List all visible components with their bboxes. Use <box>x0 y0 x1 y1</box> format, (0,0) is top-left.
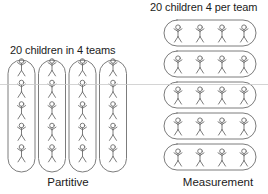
stick-figure-icon <box>109 102 117 119</box>
stick-figure-icon <box>218 87 226 104</box>
stick-figure-icon <box>174 149 182 166</box>
stick-figure-icon <box>18 59 26 76</box>
stick-figure-icon <box>48 59 56 76</box>
stick-figure-icon <box>196 56 204 73</box>
stick-figure-icon <box>196 149 204 166</box>
stick-figure-icon <box>240 87 248 104</box>
diagram-canvas: 20 children in 4 teams 20 children 4 per… <box>0 0 268 194</box>
stick-figure-icon <box>79 123 87 140</box>
stick-figure-icon <box>240 149 248 166</box>
stick-figure-icon <box>174 87 182 104</box>
stick-figure-icon <box>79 80 87 97</box>
stick-figure-icon <box>196 25 204 42</box>
stick-figure-icon <box>174 25 182 42</box>
measurement-group-layer <box>164 20 256 170</box>
stick-figure-icon <box>240 56 248 73</box>
partitive-group-layer <box>8 59 127 172</box>
partitive-label: Partitive <box>18 176 118 189</box>
stick-figure-icon <box>109 123 117 140</box>
stick-figure-icon <box>18 102 26 119</box>
stick-figure-icon <box>48 145 56 162</box>
stick-figure-icon <box>174 56 182 73</box>
stick-figure-icon <box>174 118 182 135</box>
stick-figure-icon <box>18 145 26 162</box>
stick-figure-icon <box>196 118 204 135</box>
stick-figure-icon <box>218 25 226 42</box>
stick-figure-icon <box>18 80 26 97</box>
stick-figure-icon <box>240 118 248 135</box>
partitive-measurement-diagram <box>0 0 268 194</box>
stick-figure-icon <box>79 59 87 76</box>
stick-figure-icon <box>48 80 56 97</box>
stick-figure-icon <box>196 87 204 104</box>
stick-figure-icon <box>109 80 117 97</box>
stick-figure-icon <box>240 25 248 42</box>
stick-figure-icon <box>18 123 26 140</box>
stick-figure-icon <box>79 102 87 119</box>
stick-figure-icon <box>218 149 226 166</box>
stick-figure-icon <box>109 59 117 76</box>
stick-figure-icon <box>48 102 56 119</box>
stick-figure-icon <box>48 123 56 140</box>
stick-figure-icon <box>218 56 226 73</box>
stick-figure-icon <box>109 145 117 162</box>
measurement-label: Measurement <box>168 176 268 189</box>
partitive-title: 20 children in 4 teams <box>10 44 115 57</box>
measurement-title: 20 children 4 per team <box>150 1 257 14</box>
stick-figure-icon <box>79 145 87 162</box>
stick-figure-icon <box>218 118 226 135</box>
